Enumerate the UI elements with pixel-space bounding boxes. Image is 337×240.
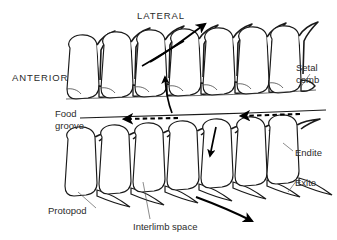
label-exite: Exite bbox=[295, 177, 316, 188]
label-setal-comb-line2: comb bbox=[296, 74, 319, 85]
limb-diagram-figure: LATERAL ANTERIOR Setal comb Food groove … bbox=[0, 0, 337, 240]
label-lateral: LATERAL bbox=[137, 10, 185, 21]
label-endite: Endite bbox=[295, 147, 322, 158]
label-food-groove-line2: groove bbox=[55, 120, 84, 131]
label-setal-comb-line1: Setal bbox=[296, 62, 318, 73]
label-interlimb-space: Interlimb space bbox=[133, 221, 197, 232]
label-food-groove-line1: Food bbox=[55, 108, 77, 119]
label-anterior: ANTERIOR bbox=[12, 72, 68, 83]
label-protopod: Protopod bbox=[48, 205, 87, 216]
